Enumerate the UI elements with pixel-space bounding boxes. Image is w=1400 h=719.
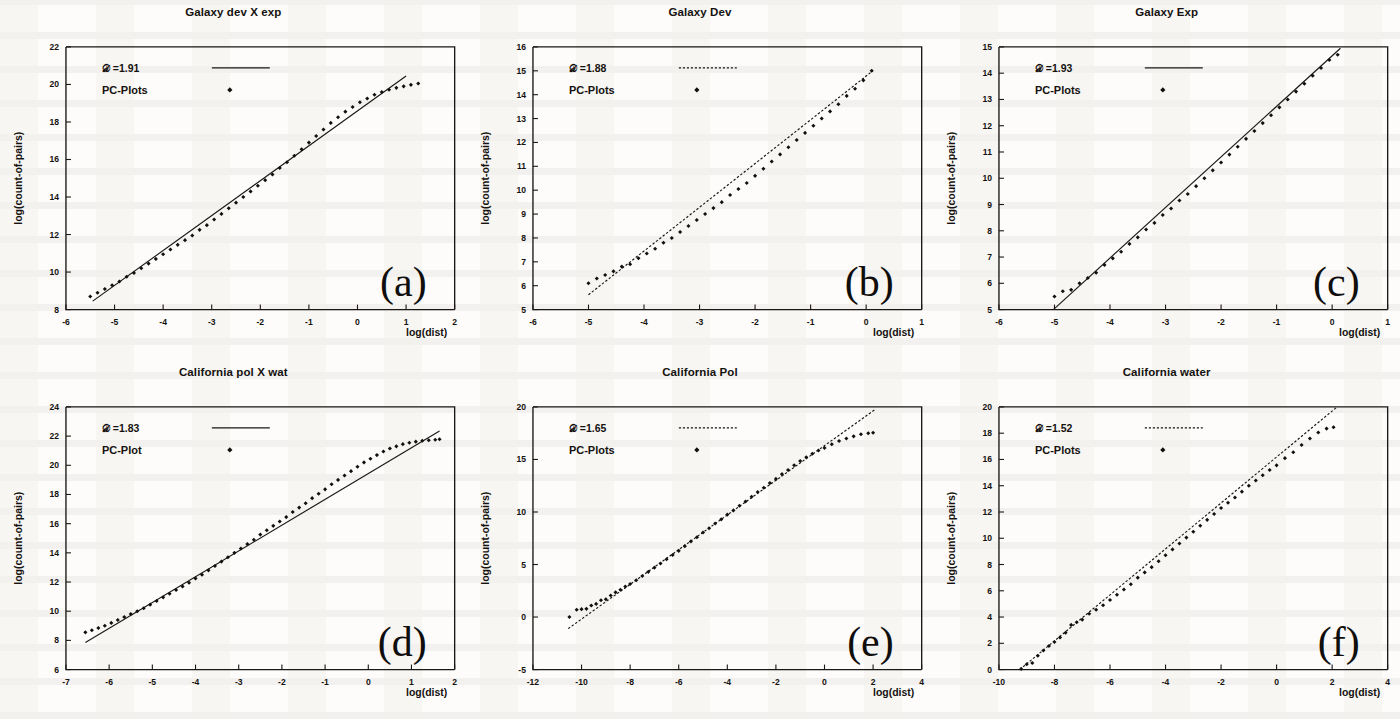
- svg-text:18: 18: [49, 117, 59, 127]
- plot-area: 810121416182022-6-5-4-3-2-1012log(dist)l…: [0, 0, 467, 360]
- svg-text:log(count-of-pairs): log(count-of-pairs): [480, 491, 491, 584]
- svg-text:16: 16: [983, 454, 993, 464]
- chart-panel: California Pol -505101520-12-10-8-6-4-20…: [467, 360, 934, 719]
- svg-text:-5: -5: [111, 317, 119, 327]
- svg-text:log(dist): log(dist): [873, 686, 914, 697]
- svg-text:-2: -2: [1218, 676, 1226, 686]
- svg-text:22: 22: [49, 42, 59, 52]
- svg-text:0: 0: [822, 676, 827, 686]
- svg-text:-6: -6: [995, 317, 1003, 327]
- svg-text:𝒟 =1.83: 𝒟 =1.83: [102, 422, 140, 433]
- svg-text:1: 1: [404, 317, 409, 327]
- svg-text:15: 15: [516, 454, 526, 464]
- chart-panel: Galaxy Dev 5678910111213141516-6-5-4-3-2…: [467, 0, 934, 360]
- svg-text:PC-Plots: PC-Plots: [1035, 84, 1081, 96]
- svg-text:log(count-of-pairs): log(count-of-pairs): [13, 132, 24, 225]
- svg-text:-5: -5: [1051, 317, 1059, 327]
- svg-text:(d): (d): [378, 618, 427, 665]
- svg-text:0: 0: [1330, 317, 1335, 327]
- svg-text:18: 18: [49, 489, 59, 499]
- plot-area: 56789101112131415-6-5-4-3-2-101log(dist)…: [933, 0, 1400, 360]
- svg-text:20: 20: [49, 460, 59, 470]
- svg-text:2: 2: [452, 676, 457, 686]
- svg-text:-2: -2: [772, 676, 780, 686]
- svg-text:-1: -1: [321, 676, 329, 686]
- scatter-points: [1019, 425, 1335, 671]
- svg-text:5: 5: [988, 305, 993, 315]
- svg-text:-6: -6: [62, 317, 70, 327]
- svg-text:10: 10: [983, 533, 993, 543]
- svg-text:14: 14: [516, 90, 526, 100]
- svg-text:-12: -12: [526, 676, 539, 686]
- svg-text:16: 16: [49, 154, 59, 164]
- svg-text:-6: -6: [529, 317, 537, 327]
- svg-text:0: 0: [355, 317, 360, 327]
- plot-area: -505101520-12-10-8-6-4-2024log(dist)log(…: [467, 360, 934, 719]
- svg-text:-10: -10: [575, 676, 588, 686]
- svg-text:-4: -4: [640, 317, 648, 327]
- svg-text:12: 12: [49, 577, 59, 587]
- svg-text:15: 15: [983, 42, 993, 52]
- plot-area: 5678910111213141516-6-5-4-3-2-101log(dis…: [467, 0, 934, 360]
- svg-text:16: 16: [516, 42, 526, 52]
- svg-text:14: 14: [983, 480, 993, 490]
- svg-text:(f): (f): [1318, 618, 1360, 665]
- svg-text:-4: -4: [1107, 317, 1115, 327]
- svg-text:-4: -4: [1162, 676, 1170, 686]
- svg-text:-5: -5: [584, 317, 592, 327]
- scatter-points: [567, 430, 875, 618]
- scatter-points: [1053, 53, 1340, 299]
- svg-text:14: 14: [49, 192, 59, 202]
- svg-text:log(count-of-pairs): log(count-of-pairs): [480, 132, 491, 225]
- svg-text:𝒟 =1.93: 𝒟 =1.93: [1035, 63, 1073, 74]
- svg-text:8: 8: [54, 305, 59, 315]
- svg-text:𝒟 =1.52: 𝒟 =1.52: [1035, 422, 1073, 433]
- svg-text:log(dist): log(dist): [1339, 686, 1380, 697]
- svg-text:1: 1: [409, 676, 414, 686]
- svg-text:-2: -2: [278, 676, 286, 686]
- chart-panel: California water 02468101214161820-10-8-…: [933, 360, 1400, 719]
- svg-text:10: 10: [983, 173, 993, 183]
- svg-text:log(count-of-pairs): log(count-of-pairs): [946, 491, 957, 584]
- svg-text:10: 10: [49, 267, 59, 277]
- svg-text:4: 4: [1386, 676, 1391, 686]
- svg-text:0: 0: [366, 676, 371, 686]
- svg-text:12: 12: [516, 137, 526, 147]
- svg-text:6: 6: [988, 278, 993, 288]
- scatter-points: [88, 81, 420, 298]
- svg-text:5: 5: [521, 305, 526, 315]
- svg-text:20: 20: [516, 401, 526, 411]
- scatter-points: [586, 69, 873, 286]
- svg-text:-3: -3: [695, 317, 703, 327]
- svg-text:-1: -1: [305, 317, 313, 327]
- svg-text:-4: -4: [159, 317, 167, 327]
- svg-text:-6: -6: [105, 676, 113, 686]
- svg-text:PC-Plots: PC-Plots: [102, 84, 148, 96]
- svg-text:-4: -4: [723, 676, 731, 686]
- svg-text:-4: -4: [192, 676, 200, 686]
- svg-text:2: 2: [452, 317, 457, 327]
- svg-text:-5: -5: [518, 664, 526, 674]
- svg-text:-2: -2: [256, 317, 264, 327]
- plot-area: 02468101214161820-10-8-6-4-2024log(dist)…: [933, 360, 1400, 719]
- svg-text:11: 11: [517, 161, 526, 171]
- svg-text:-3: -3: [1162, 317, 1170, 327]
- svg-text:PC-Plots: PC-Plots: [1035, 443, 1081, 455]
- chart-panel: California pol X wat 681012141618202224-…: [0, 360, 467, 719]
- svg-text:0: 0: [863, 317, 868, 327]
- svg-text:𝒟 =1.88: 𝒟 =1.88: [569, 63, 607, 74]
- svg-text:1: 1: [919, 317, 924, 327]
- svg-text:𝒟 =1.65: 𝒟 =1.65: [569, 422, 607, 433]
- svg-text:-10: -10: [993, 676, 1006, 686]
- svg-text:10: 10: [516, 185, 526, 195]
- svg-text:-3: -3: [235, 676, 243, 686]
- svg-text:log(dist): log(dist): [406, 327, 447, 338]
- svg-text:6: 6: [521, 281, 526, 291]
- svg-text:15: 15: [516, 66, 526, 76]
- svg-text:-7: -7: [62, 676, 70, 686]
- svg-text:11: 11: [983, 147, 992, 157]
- svg-text:PC-Plots: PC-Plots: [569, 84, 615, 96]
- svg-text:9: 9: [988, 200, 993, 210]
- svg-text:5: 5: [521, 559, 526, 569]
- scatter-points: [83, 437, 441, 634]
